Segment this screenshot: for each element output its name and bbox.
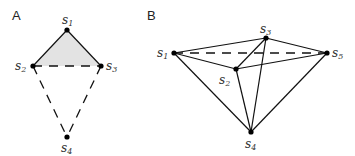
vertex-label-s1: s1	[62, 13, 73, 28]
panel-a: As1s2s3s4	[12, 8, 117, 156]
vertex-s5	[324, 50, 329, 55]
panel-label: B	[147, 8, 156, 23]
edge	[266, 38, 327, 53]
edge	[174, 38, 266, 53]
edge	[174, 53, 236, 69]
vertex-label-s2: s2	[15, 59, 26, 74]
panel-label: A	[12, 8, 21, 23]
vertex-label-s4: s4	[61, 141, 72, 156]
vertex-s4	[248, 129, 253, 134]
vertex-s2	[30, 63, 35, 68]
vertex-s2	[233, 66, 238, 71]
vertex-label-s4: s4	[245, 137, 256, 152]
vertex-label-s3: s3	[106, 59, 117, 74]
hidden-edge	[67, 66, 101, 137]
diagram-svg: As1s2s3s4Bs1s2s3s4s5	[0, 0, 355, 156]
vertex-s1	[64, 27, 69, 32]
vertex-s4	[64, 134, 69, 139]
vertex-label-s2: s2	[219, 73, 230, 88]
vertex-label-s5: s5	[332, 46, 343, 61]
hidden-edge	[33, 66, 67, 137]
vertex-s1	[171, 50, 176, 55]
panel-b: Bs1s2s3s4s5	[147, 8, 343, 152]
vertex-label-s3: s3	[260, 22, 271, 37]
shaded-face	[33, 30, 101, 66]
vertex-s3	[98, 63, 103, 68]
edge	[236, 69, 251, 132]
diagram-canvas: As1s2s3s4Bs1s2s3s4s5	[0, 0, 355, 156]
vertex-label-s1: s1	[157, 46, 168, 61]
